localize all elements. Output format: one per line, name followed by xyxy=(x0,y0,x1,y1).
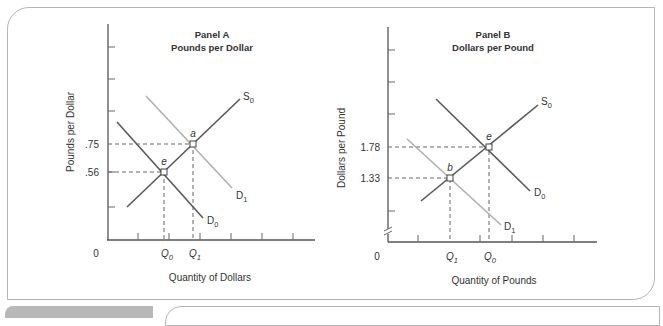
panel-a-s0-label: S0 xyxy=(243,91,254,105)
panel-a-y-tick-075: .75 xyxy=(85,139,99,150)
panel-b-guide-b xyxy=(388,178,450,242)
panel-b-y-ticks xyxy=(388,50,395,211)
panel-b-y-tick-133: 1.33 xyxy=(361,173,381,184)
panel-a-chart: Panel A Pounds per Dollar Pounds per Dol… xyxy=(65,24,315,283)
panel-b-d1-label: D1 xyxy=(504,221,515,235)
panel-b-s0-label: S0 xyxy=(541,96,552,110)
panel-b-d0-label: D0 xyxy=(534,187,545,201)
panel-b-y-axis-label: Dollars per Pound xyxy=(336,108,347,188)
panel-a-d1-label: D1 xyxy=(236,190,247,204)
panel-b-q1-label: Q1 xyxy=(446,251,458,265)
panel-b-demand-curve-d1 xyxy=(407,139,501,225)
panel-b-point-e-label: e xyxy=(486,131,492,142)
panel-a-subtitle: Pounds per Dollar xyxy=(171,42,253,53)
panel-a-point-a xyxy=(190,141,196,147)
panel-a-y-axis-label: Pounds per Dollar xyxy=(65,91,76,172)
panel-b-point-b xyxy=(447,175,453,181)
panel-a-point-e xyxy=(161,169,167,175)
panel-b-point-b-label: b xyxy=(447,162,453,173)
panel-b-point-e xyxy=(486,144,492,150)
panel-b-x-axis-label: Quantity of Pounds xyxy=(451,275,536,286)
panel-b-supply-curve-s0 xyxy=(421,105,538,201)
panel-a-demand-curve-d1 xyxy=(146,96,232,188)
panel-b-subtitle: Dollars per Pound xyxy=(452,42,534,53)
panel-a-d0-label: D0 xyxy=(207,215,218,229)
panel-a-x-ticks xyxy=(138,233,293,240)
panel-a-guide-e xyxy=(108,172,164,240)
panel-a-y-ticks xyxy=(108,47,115,207)
panel-b-guide-e xyxy=(388,147,489,242)
panel-a-y-tick-056: .56 xyxy=(85,167,99,178)
panel-a-x-axis-label: Quantity of Dollars xyxy=(169,272,251,283)
panel-a-q0-label: Q0 xyxy=(161,248,174,262)
panel-b-x-ticks xyxy=(418,235,574,242)
panel-b-y-tick-178: 1.78 xyxy=(361,142,381,153)
panel-a-point-e-label: e xyxy=(161,156,167,167)
panel-a-title: Panel A xyxy=(195,29,230,40)
panel-b-chart: Panel B Dollars per Pound Dollars per Po… xyxy=(336,27,597,286)
panel-a-point-a-label: a xyxy=(190,128,196,139)
panel-a-q1-label: Q1 xyxy=(189,248,201,262)
panel-b-origin-label: 0 xyxy=(374,251,380,262)
panel-a-origin-label: 0 xyxy=(93,248,99,259)
panel-b-title: Panel B xyxy=(476,29,511,40)
panel-b-q0-label: Q0 xyxy=(484,251,497,265)
